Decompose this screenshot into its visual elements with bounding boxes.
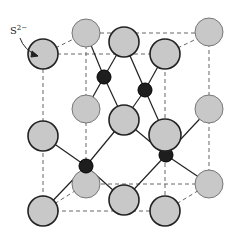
zinc-blende-unit-cell [0,0,236,240]
sulfide-ions-back [72,18,223,198]
sulfide-ions-front [28,27,181,226]
ion-symbol: S [10,25,17,36]
ion-charge: 2− [17,24,27,32]
sulfide-ion-label: S2− [10,24,27,36]
